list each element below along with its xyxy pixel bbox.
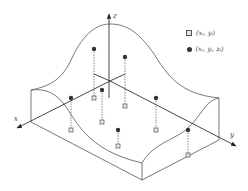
- data-points: [69, 47, 190, 157]
- projection-square: [92, 96, 96, 100]
- point-6: [154, 96, 158, 132]
- y-axis: [110, 81, 236, 146]
- legend: (xᵢ, yᵢ) (xᵢ, yᵢ, zᵢ): [186, 25, 224, 57]
- legend-item-dot: (xᵢ, yᵢ, zᵢ): [186, 41, 224, 57]
- projection-square: [116, 144, 120, 148]
- surface-dot: [123, 55, 127, 59]
- surface-dot: [154, 96, 158, 100]
- x-axis-label: x: [14, 115, 18, 123]
- projection-square: [69, 128, 73, 132]
- legend-label: (xᵢ, yᵢ): [196, 29, 215, 37]
- point-7: [186, 128, 190, 157]
- point-5: [116, 128, 120, 148]
- projection-square: [154, 128, 158, 132]
- dot-marker-icon: [187, 47, 192, 52]
- surface-dot: [116, 128, 120, 132]
- surface-dot: [92, 47, 96, 51]
- y-axis-label: y: [229, 131, 235, 139]
- projection-square: [186, 153, 190, 157]
- z-axis-label: z: [112, 12, 117, 20]
- legend-item-square: (xᵢ, yᵢ): [186, 25, 224, 41]
- surface-dot: [186, 128, 190, 132]
- point-4: [100, 88, 104, 124]
- surface-dot: [69, 96, 73, 100]
- projection-square: [123, 104, 127, 108]
- square-marker-icon: [186, 30, 192, 36]
- point-2: [123, 55, 127, 108]
- surface-dot: [100, 88, 104, 92]
- legend-label: (xᵢ, yᵢ, zᵢ): [196, 45, 224, 53]
- point-1: [92, 47, 96, 100]
- projection-square: [100, 120, 104, 124]
